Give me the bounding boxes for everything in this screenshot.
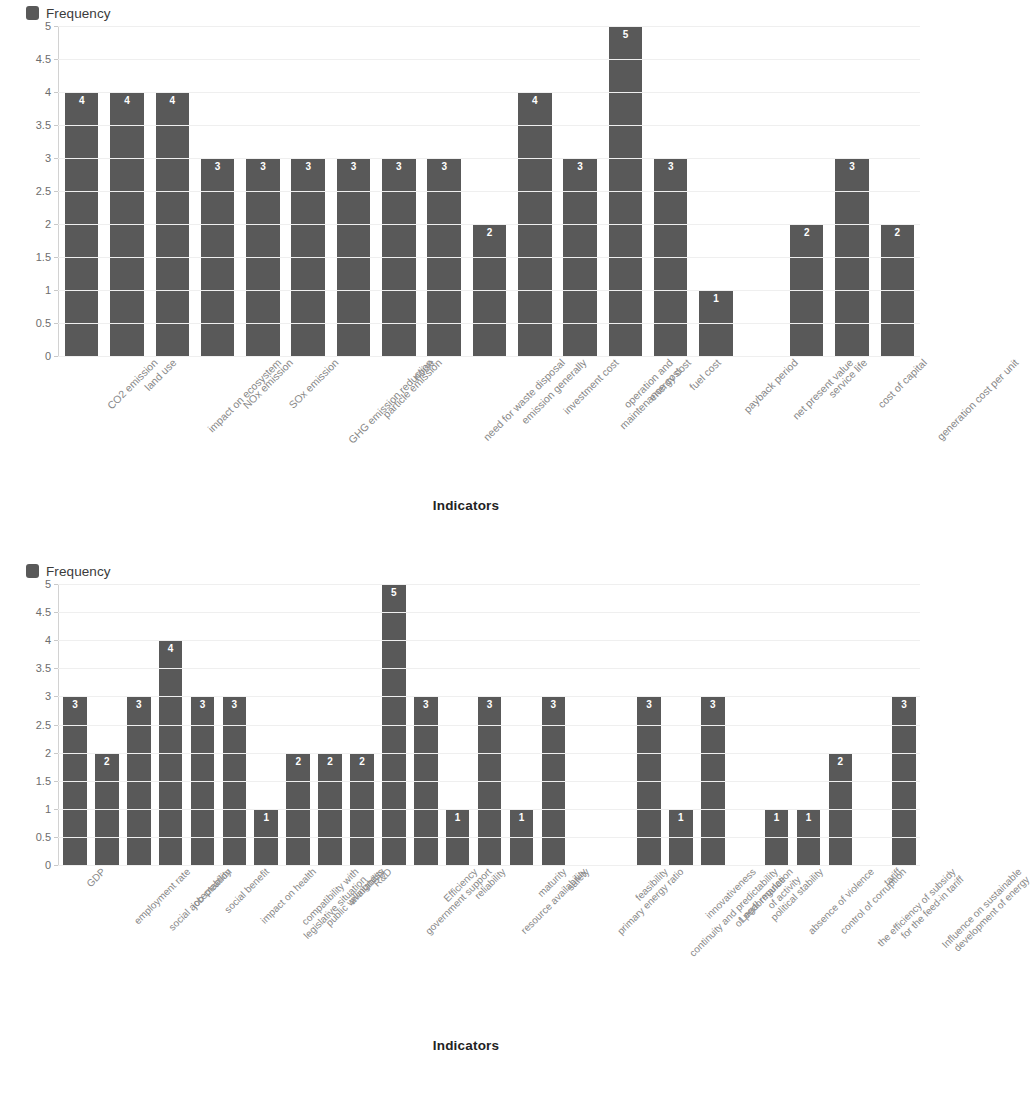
bar-value-label: 2 bbox=[473, 228, 507, 238]
bar-value-label: 2 bbox=[286, 757, 310, 767]
bar-value-label: 3 bbox=[201, 162, 235, 172]
y-axis-tick-label: 1 bbox=[45, 803, 51, 814]
y-axis-tick-label: 4 bbox=[45, 87, 51, 98]
gridline bbox=[58, 668, 920, 669]
gridline bbox=[58, 781, 920, 782]
gridline bbox=[58, 125, 920, 126]
bar-value-label: 4 bbox=[156, 96, 190, 106]
gridline bbox=[58, 612, 920, 613]
legend-label: Frequency bbox=[46, 6, 111, 21]
bar-value-label: 3 bbox=[478, 700, 502, 710]
bar-value-label: 3 bbox=[654, 162, 688, 172]
y-axis-tick-label: 3 bbox=[45, 153, 51, 164]
y-tick-mark bbox=[54, 668, 58, 669]
legend-swatch-icon bbox=[26, 6, 39, 20]
gridline bbox=[58, 640, 920, 641]
y-tick-mark bbox=[54, 323, 58, 324]
bar-value-label: 3 bbox=[637, 700, 661, 710]
y-tick-mark bbox=[54, 26, 58, 27]
bar-value-label: 3 bbox=[892, 700, 916, 710]
plot-1: 444333333243531232 54.543.532.521.510.50 bbox=[58, 26, 920, 357]
y-tick-mark bbox=[54, 290, 58, 291]
y-axis-tick-label: 1 bbox=[45, 285, 51, 296]
gridline bbox=[58, 809, 920, 810]
gridline bbox=[58, 191, 920, 192]
y-axis-tick-label: 2.5 bbox=[36, 186, 51, 197]
bar-value-label: 3 bbox=[191, 700, 215, 710]
bar-value-label: 2 bbox=[95, 757, 119, 767]
gridline bbox=[58, 59, 920, 60]
gridline bbox=[58, 696, 920, 697]
bar-value-label: 5 bbox=[382, 588, 406, 598]
gridline bbox=[58, 725, 920, 726]
chart-panel-1: Frequency 444333333243531232 54.543.532.… bbox=[0, 0, 932, 558]
bar-value-label: 1 bbox=[797, 813, 821, 823]
y-tick-mark bbox=[54, 725, 58, 726]
y-tick-mark bbox=[54, 257, 58, 258]
bar-value-label: 3 bbox=[835, 162, 869, 172]
y-axis-tick-label: 0 bbox=[45, 351, 51, 362]
gridline bbox=[58, 26, 920, 27]
y-tick-mark bbox=[54, 696, 58, 697]
x-category-labels-1: CO2 emissionland useimpact on ecosystemN… bbox=[58, 357, 920, 492]
x-axis-category-label: government support bbox=[423, 866, 494, 937]
x-axis-category-label: need for waste disposal bbox=[481, 357, 567, 443]
bar-value-label: 3 bbox=[563, 162, 597, 172]
y-axis-tick-label: 0.5 bbox=[36, 831, 51, 842]
bar-value-label: 4 bbox=[65, 96, 99, 106]
y-tick-mark bbox=[54, 753, 58, 754]
gridline bbox=[58, 837, 920, 838]
y-tick-mark bbox=[54, 837, 58, 838]
bar-value-label: 5 bbox=[609, 30, 643, 40]
y-axis-tick-label: 5 bbox=[45, 579, 51, 590]
bar-value-label: 3 bbox=[701, 700, 725, 710]
bar-value-label: 3 bbox=[63, 700, 87, 710]
plot-area-2: 32343312225313133131123 54.543.532.521.5… bbox=[0, 584, 932, 866]
y-axis-tick-label: 3 bbox=[45, 691, 51, 702]
y-axis-tick-label: 2 bbox=[45, 219, 51, 230]
bar-value-label: 1 bbox=[446, 813, 470, 823]
x-axis-category-label: net present value bbox=[790, 357, 855, 422]
bar-value-label: 3 bbox=[337, 162, 371, 172]
bar-value-label: 1 bbox=[510, 813, 534, 823]
y-axis-tick-label: 2.5 bbox=[36, 719, 51, 730]
x-axis-category-label: cost of capital bbox=[876, 357, 930, 411]
y-tick-mark bbox=[54, 191, 58, 192]
plot-area-1: 444333333243531232 54.543.532.521.510.50 bbox=[0, 26, 932, 357]
gridline bbox=[58, 224, 920, 225]
y-tick-mark bbox=[54, 158, 58, 159]
y-axis-tick-label: 3.5 bbox=[36, 120, 51, 131]
x-axis-category-label: payback period bbox=[742, 357, 801, 416]
bar-value-label: 3 bbox=[291, 162, 325, 172]
x-axis-category-label: impact on ecosystem bbox=[206, 357, 284, 435]
y-tick-mark bbox=[54, 584, 58, 585]
y-tick-mark bbox=[54, 781, 58, 782]
bar-value-label: 3 bbox=[542, 700, 566, 710]
bar-value-label: 2 bbox=[881, 228, 915, 238]
bar-value-label: 2 bbox=[318, 757, 342, 767]
x-axis-title-1: Indicators bbox=[0, 498, 932, 513]
y-axis-tick-label: 1.5 bbox=[36, 775, 51, 786]
y-tick-mark bbox=[54, 125, 58, 126]
legend-2: Frequency bbox=[0, 558, 932, 584]
gridline bbox=[58, 92, 920, 93]
x-axis-category-label: safety bbox=[564, 866, 591, 893]
x-axis-title-2: Indicators bbox=[0, 1038, 932, 1053]
y-axis-tick-label: 4 bbox=[45, 635, 51, 646]
gridline bbox=[58, 257, 920, 258]
y-axis-tick-label: 3.5 bbox=[36, 663, 51, 674]
gridline bbox=[58, 323, 920, 324]
bar-value-label: 3 bbox=[414, 700, 438, 710]
legend-swatch-icon bbox=[26, 564, 39, 578]
bar-value-label: 4 bbox=[110, 96, 144, 106]
y-axis-tick-label: 4.5 bbox=[36, 54, 51, 65]
bar-value-label: 2 bbox=[350, 757, 374, 767]
y-tick-mark bbox=[54, 224, 58, 225]
x-axis-category-label: fuel cost bbox=[687, 357, 723, 393]
y-axis-tick-label: 4.5 bbox=[36, 607, 51, 618]
y-tick-mark bbox=[54, 640, 58, 641]
gridline bbox=[58, 753, 920, 754]
bar-value-label: 4 bbox=[518, 96, 552, 106]
legend-label: Frequency bbox=[46, 564, 111, 579]
y-tick-mark bbox=[54, 809, 58, 810]
